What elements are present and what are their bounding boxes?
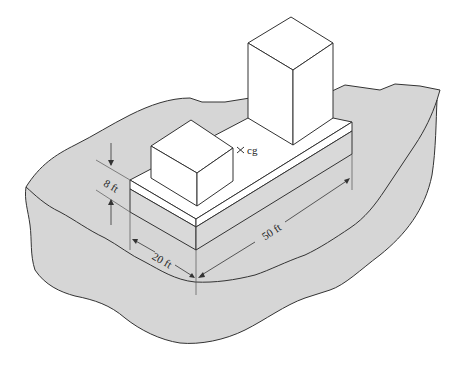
diagram-canvas: cg 8 ft 20 ft 50 ft bbox=[0, 0, 460, 370]
diagram-stage: cg 8 ft 20 ft 50 ft bbox=[0, 0, 460, 370]
cg-label: cg bbox=[247, 144, 258, 156]
